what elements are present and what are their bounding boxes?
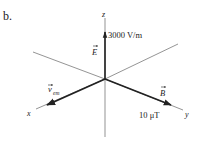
figure-label: b. [3, 9, 12, 23]
z-axis-label: z [101, 10, 106, 19]
negative-x-axis [105, 44, 178, 79]
svg-text:E: E [91, 47, 98, 57]
e-field-magnitude: 3000 V/m [108, 30, 142, 40]
b-field-symbol: B [160, 87, 166, 98]
y-axis-label: y [184, 110, 189, 119]
svg-text:v: v [48, 84, 52, 94]
em-wave-diagram: b. z x y 3000 V/m E v em B 10 μT [0, 0, 201, 143]
svg-text:em: em [53, 90, 59, 96]
svg-text:B: B [160, 88, 165, 98]
e-field-symbol: E [91, 46, 98, 57]
velocity-symbol: v em [48, 84, 59, 96]
b-field-magnitude: 10 μT [139, 110, 160, 120]
x-axis-label: x [26, 109, 31, 118]
